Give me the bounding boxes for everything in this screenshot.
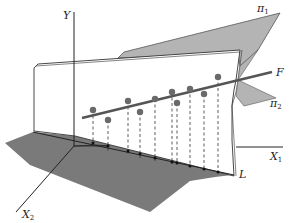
line-l-label: L [238,168,246,181]
plane-pi2-label: π2 [269,97,282,111]
x1-axis-label: X1 [269,150,282,164]
x2-axis-label: X2 [21,208,34,222]
y-axis-label: Y [63,9,72,22]
plane-pi1-label: π1 [256,2,269,16]
line-f-label: F [275,66,284,79]
regression-planes-diagram: Y X1 X2 F L π1 π2 [0,0,293,223]
